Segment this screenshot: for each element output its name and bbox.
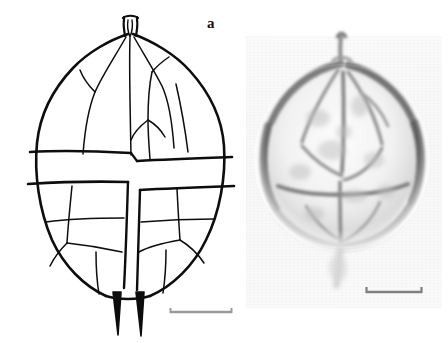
scale-bar-b bbox=[366, 287, 422, 293]
hypotheca-suture-l5 bbox=[96, 252, 99, 294]
epitheca-suture-6 bbox=[148, 72, 152, 159]
hypotheca-suture-r4 bbox=[139, 240, 180, 252]
cell-outline-right bbox=[133, 34, 224, 296]
epitheca-suture-2 bbox=[80, 70, 95, 92]
dinoflagellate-micrograph bbox=[240, 0, 448, 343]
trailing-flagellum bbox=[329, 248, 347, 288]
epitheca-suture-9 bbox=[148, 120, 165, 137]
panel-label-a: a bbox=[207, 16, 215, 31]
apical-horn-right bbox=[136, 17, 137, 36]
apical-horn-left bbox=[124, 17, 125, 36]
micrograph-focal-halo bbox=[254, 64, 430, 252]
cingulum-upper-line-right bbox=[137, 157, 232, 161]
hypotheca-suture-l4 bbox=[67, 243, 122, 252]
cingulum-lower-line-right bbox=[140, 186, 234, 190]
sulcus-right-edge bbox=[137, 190, 140, 290]
dinoflagellate-line-drawing bbox=[0, 0, 240, 343]
epitheca-suture-3 bbox=[130, 38, 131, 155]
cingulum-step bbox=[131, 153, 137, 161]
epitheca-suture-8 bbox=[131, 120, 148, 140]
hypotheca-suture-l1 bbox=[67, 186, 72, 243]
sulcus-left-edge bbox=[124, 182, 128, 288]
scale-bar-a bbox=[170, 308, 232, 313]
cingulum-lower-line bbox=[28, 182, 128, 184]
apical-horn-photo bbox=[340, 36, 341, 66]
panel-a-line-drawing: a bbox=[0, 0, 240, 343]
apical-pore-cap bbox=[123, 16, 138, 18]
epitheca-suture-4 bbox=[134, 37, 174, 148]
figure-plate: a bbox=[0, 0, 448, 343]
hypotheca-suture-r1 bbox=[177, 189, 180, 240]
hypotheca-suture-l2 bbox=[46, 218, 124, 222]
hypotheca-suture-r2 bbox=[141, 219, 214, 222]
epitheca-suture-7 bbox=[176, 84, 188, 152]
epitheca-suture-5 bbox=[152, 57, 169, 72]
panel-b-photomicrograph: b bbox=[240, 0, 448, 343]
cingulum-upper-line bbox=[30, 151, 131, 153]
